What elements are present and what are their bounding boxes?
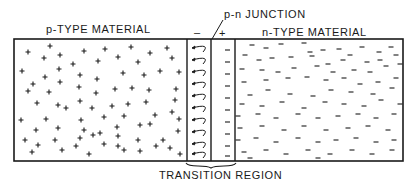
positive-charge [96,59,101,64]
positive-charge [110,104,115,109]
positive-charge [87,152,92,157]
positive-charge [77,85,82,90]
positive-charge [177,70,182,75]
arrowhead-icon [192,106,195,109]
positive-charge [53,138,58,143]
p-type-label: p-TYPE MATERIAL [46,23,151,35]
p-type-charges [19,44,183,157]
positive-charge [138,123,143,128]
arrowhead-icon [192,82,195,85]
positive-charge [20,69,25,74]
depletion-positive-sign: + [219,27,226,39]
positive-charge [58,53,63,58]
positive-charge [82,128,87,133]
positive-charge [142,73,147,78]
positive-charge [78,99,83,104]
arrowhead-icon [192,70,195,73]
positive-charge [26,89,31,94]
positive-charge [19,118,24,123]
positive-charge [44,117,49,122]
positive-charge [74,144,79,149]
n-type-charges [236,43,403,158]
positive-charge [116,134,121,139]
positive-charge [170,56,175,61]
arrowhead-icon [192,94,195,97]
positive-charge [116,144,121,149]
positive-charge [98,131,103,136]
positive-charge [95,77,100,82]
positive-charge [165,46,170,51]
semiconductor-block [14,39,403,161]
transition-brace [186,163,236,168]
positive-charge [43,75,48,80]
positive-charge [42,56,47,61]
positive-charge [34,128,39,133]
positive-charge [60,148,65,153]
positive-charge [122,114,127,119]
positive-charge [90,106,95,111]
positive-charge [57,67,62,72]
positive-charge [148,51,153,56]
arrowhead-icon [192,58,195,61]
positive-charge [129,45,134,50]
arrowhead-icon [192,130,195,133]
positive-charge [122,148,127,153]
positive-charge [176,129,181,134]
positive-charge [71,62,76,67]
positive-charge [91,133,96,138]
positive-charge [173,98,178,103]
pn-junction-label: p-n JUNCTION [224,8,306,20]
positive-charge [58,80,63,85]
positive-charge [26,50,31,55]
positive-charge [78,136,83,141]
positive-charge [48,44,53,49]
positive-charge [116,55,121,60]
positive-charge [102,142,107,147]
arrowhead-icon [192,152,195,155]
positive-charge [147,88,152,93]
arrowhead-icon [192,46,195,49]
positive-charge [30,150,35,155]
positive-charge [23,138,28,143]
positive-charge [168,146,173,151]
positive-charge [35,101,40,106]
positive-charge [36,143,41,148]
arrowhead-icon [192,142,195,145]
depletion-negative-sign: – [194,26,201,38]
n-type-label: n-TYPE MATERIAL [262,26,367,38]
positive-charge [148,122,153,127]
positive-charge [56,103,61,108]
positive-charge [115,125,120,130]
positive-charge [136,138,141,143]
arrowhead-icon [192,118,195,121]
positive-charge [78,73,83,78]
positive-charge [144,100,149,105]
positive-charge [161,138,166,143]
positive-charge [79,118,84,123]
positive-charge [177,117,182,122]
positive-charge [94,91,99,96]
positive-charge [121,71,126,76]
positive-charge [138,149,143,154]
positive-charge [113,87,118,92]
positive-charge [153,113,158,118]
positive-charge [64,106,69,111]
transition-region-label: TRANSITION REGION [159,169,282,181]
positive-charge [103,47,108,52]
positive-charge [170,110,175,115]
positive-charge [82,49,87,54]
positive-charge [47,90,52,95]
positive-charge [102,115,107,120]
positive-charge [178,152,183,157]
positive-charge [31,82,36,87]
positive-charge [174,87,179,92]
positive-charge [126,102,131,107]
positive-charge [136,60,141,65]
positive-charge [56,126,61,131]
positive-charge [158,69,163,74]
positive-charge [130,86,135,91]
positive-charge [154,144,159,149]
